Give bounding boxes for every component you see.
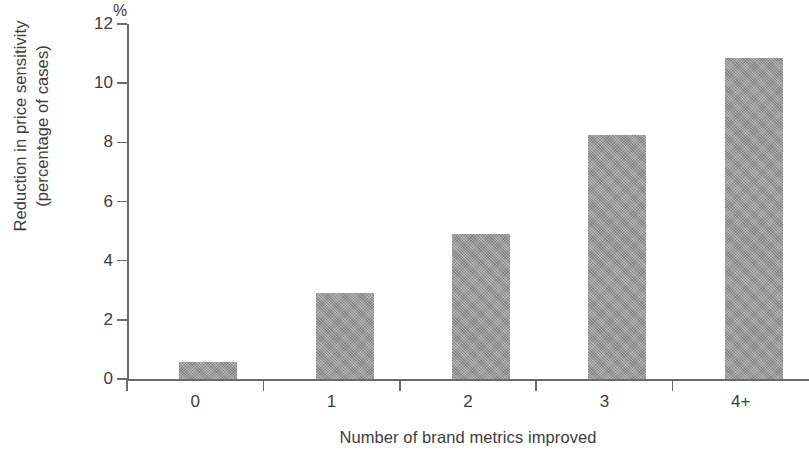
y-axis-tick bbox=[117, 201, 127, 203]
bar bbox=[452, 234, 510, 379]
bar bbox=[179, 362, 237, 379]
y-axis-line bbox=[127, 24, 129, 380]
y-axis-tick bbox=[117, 82, 127, 84]
x-axis-tick-label: 0 bbox=[155, 392, 235, 412]
x-axis-tick-label: 2 bbox=[428, 392, 508, 412]
x-axis-line bbox=[127, 379, 809, 381]
y-axis-tick-label: 2 bbox=[43, 310, 113, 330]
y-axis-tick-label: 0 bbox=[43, 369, 113, 389]
x-axis-tick bbox=[263, 380, 265, 391]
y-axis-tick bbox=[117, 142, 127, 144]
y-axis-tick-label: 8 bbox=[43, 132, 113, 152]
y-axis-tick-label: 10 bbox=[43, 73, 113, 93]
x-axis-tick bbox=[672, 380, 674, 391]
y-axis-tick bbox=[117, 23, 127, 25]
x-axis-tick bbox=[399, 380, 401, 391]
bar bbox=[725, 58, 783, 379]
bar-chart: Reduction in price sensitivity (percenta… bbox=[0, 0, 809, 456]
x-axis-tick-label: 1 bbox=[292, 392, 372, 412]
x-axis-tick bbox=[535, 380, 537, 391]
x-axis-tick-label: 3 bbox=[564, 392, 644, 412]
y-axis-tick-label: 6 bbox=[43, 192, 113, 212]
x-axis-tick bbox=[126, 380, 128, 391]
y-axis-tick-label: 12 bbox=[43, 14, 113, 34]
bar bbox=[316, 293, 374, 379]
y-axis-tick bbox=[117, 319, 127, 321]
x-axis-tick-label: 4+ bbox=[701, 392, 781, 412]
y-axis-title-line-1: Reduction in price sensitivity bbox=[10, 20, 32, 231]
y-axis-tick bbox=[117, 260, 127, 262]
x-axis-title: Number of brand metrics improved bbox=[127, 428, 809, 447]
bar bbox=[588, 135, 646, 379]
y-axis-title-line-2: (percentage of cases) bbox=[32, 45, 54, 207]
y-axis-unit-label: % bbox=[113, 2, 127, 20]
y-axis-tick-label: 4 bbox=[43, 251, 113, 271]
